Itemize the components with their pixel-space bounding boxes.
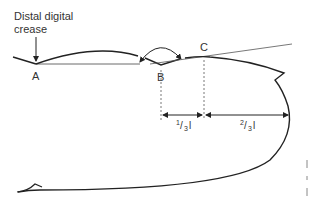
skin-line-left bbox=[13, 57, 36, 64]
fingertip-diagram: Distal digital crease A B C 1 / 3 l 2 / … bbox=[0, 0, 309, 208]
tangent-line bbox=[150, 44, 292, 64]
svg-text:/: / bbox=[180, 120, 183, 131]
svg-text:3: 3 bbox=[184, 125, 188, 132]
point-a-label: A bbox=[32, 70, 40, 82]
point-c-label: C bbox=[200, 41, 208, 53]
point-b-label: B bbox=[157, 71, 164, 83]
two-thirds-label: 2 / 3 l bbox=[240, 119, 255, 132]
one-third-label: 1 / 3 l bbox=[176, 119, 191, 132]
svg-text:/: / bbox=[244, 120, 247, 131]
crease-label-line1: Distal digital bbox=[14, 10, 73, 22]
rotation-arrow bbox=[140, 48, 181, 62]
svg-text:3: 3 bbox=[248, 125, 252, 132]
dorsal-arc bbox=[36, 51, 138, 64]
svg-text:l: l bbox=[189, 120, 191, 131]
crease-label-line2: crease bbox=[14, 23, 47, 35]
svg-text:l: l bbox=[253, 120, 255, 131]
